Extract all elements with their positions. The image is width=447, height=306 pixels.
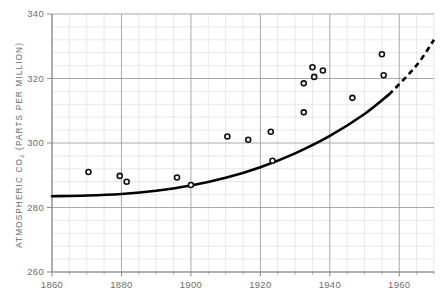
y-tick-label: 260	[27, 266, 44, 277]
data-point-marker	[86, 170, 91, 175]
co2-chart: 186018801900192019401960 260280300320340…	[0, 0, 447, 306]
data-point-marker	[246, 137, 251, 142]
data-point-marker	[188, 182, 193, 187]
data-point-marker	[268, 129, 273, 134]
y-tick-label: 300	[27, 137, 44, 148]
y-axis-title-text: ATMOSPHERIC CO2 (PARTS PER MILLION)	[15, 42, 25, 248]
data-point-marker	[310, 65, 315, 70]
y-tick-label: 340	[27, 8, 44, 19]
x-tick-label: 1940	[319, 279, 341, 290]
y-tick-label: 280	[27, 202, 44, 213]
chart-background	[0, 0, 447, 306]
y-axis-title: ATMOSPHERIC CO2 (PARTS PER MILLION)	[15, 42, 25, 248]
data-point-marker	[312, 74, 317, 79]
data-point-marker	[175, 175, 180, 180]
data-point-marker	[117, 173, 122, 178]
chart-canvas: 186018801900192019401960 260280300320340…	[0, 0, 447, 306]
data-point-marker	[225, 134, 230, 139]
data-point-marker	[270, 158, 275, 163]
data-point-marker	[379, 52, 384, 57]
data-point-marker	[301, 110, 306, 115]
x-tick-label: 1900	[180, 279, 202, 290]
data-point-marker	[381, 73, 386, 78]
x-tick-label: 1880	[110, 279, 132, 290]
x-tick-label: 1960	[388, 279, 410, 290]
x-tick-label: 1920	[249, 279, 271, 290]
data-point-marker	[301, 81, 306, 86]
x-tick-label: 1860	[41, 279, 63, 290]
y-tick-label: 320	[27, 73, 44, 84]
data-point-marker	[124, 179, 129, 184]
data-point-marker	[320, 68, 325, 73]
data-point-marker	[350, 95, 355, 100]
